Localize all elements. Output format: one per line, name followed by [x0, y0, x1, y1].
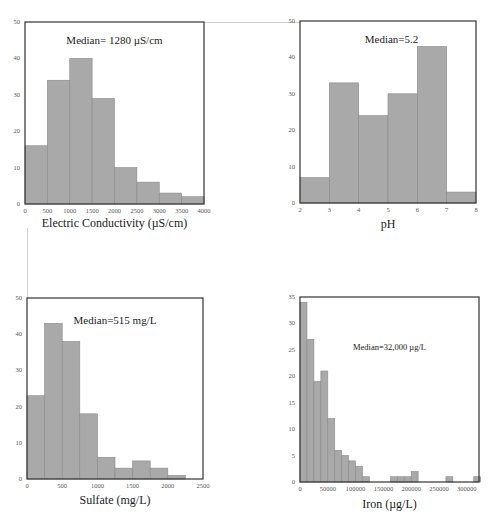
x-tick-label: 3: [328, 206, 331, 213]
x-tick-label: 1000: [91, 482, 104, 489]
x-axis-label: pH: [381, 217, 396, 232]
y-tick-label: 40: [16, 330, 23, 337]
x-axis-label: Sulfate (mg/L): [80, 493, 151, 508]
histogram-bar: [329, 83, 358, 203]
y-tick-label: 10: [289, 163, 296, 170]
y-tick-label: 25: [289, 346, 296, 353]
y-tick-label: 30: [14, 91, 21, 98]
x-tick-label: 2000: [108, 207, 121, 214]
x-tick-label: 4: [357, 206, 361, 213]
histogram-electric-conductivity: 0102030405005001000150020002500300035004…: [25, 22, 204, 204]
histogram-bar: [45, 323, 63, 479]
x-tick-label: 500: [57, 482, 67, 489]
y-tick-label: 0: [17, 200, 20, 207]
x-tick-label: 0: [25, 482, 28, 489]
y-tick-label: 50: [14, 18, 21, 25]
x-tick-label: 2500: [197, 482, 210, 489]
x-tick-label: 300000: [457, 485, 477, 492]
median-annotation: Median=5.2: [365, 33, 419, 45]
histogram-bar: [446, 477, 453, 482]
histogram-plot-area: 0102030405005001000150020002500Median=51…: [27, 298, 203, 479]
histogram-bar: [349, 461, 356, 482]
y-tick-label: 40: [14, 54, 21, 61]
x-tick-label: 1500: [86, 207, 99, 214]
histogram-bar: [356, 466, 363, 482]
histogram-bar: [159, 193, 181, 204]
histogram-plot-area: 0510152025303505000010000015000020000025…: [300, 297, 479, 482]
x-tick-label: 4000: [198, 207, 211, 214]
y-tick-label: 10: [289, 425, 296, 432]
histogram-bar: [321, 371, 328, 482]
histogram-bar: [411, 471, 418, 482]
x-tick-label: 200000: [401, 485, 421, 492]
histogram-bar: [397, 477, 404, 482]
scan-artifact-vertical-line: [27, 228, 28, 298]
y-tick-label: 20: [289, 126, 296, 133]
y-tick-label: 0: [19, 475, 22, 482]
histogram-bar: [47, 80, 69, 204]
median-annotation: Median= 1280 µS/cm: [66, 34, 163, 46]
x-tick-label: 250000: [429, 485, 449, 492]
histogram-bar: [62, 341, 80, 479]
x-axis-label: Electric Conductivity (µS/cm): [42, 216, 188, 231]
x-tick-label: 50000: [320, 485, 336, 492]
x-axis-label: Iron (µg/L): [362, 497, 417, 512]
x-tick-label: 2: [298, 206, 301, 213]
histogram-bar: [70, 58, 92, 204]
histogram-bar: [359, 116, 388, 203]
x-tick-label: 2500: [130, 207, 143, 214]
histogram-bar: [342, 456, 349, 482]
histogram-bar: [314, 382, 321, 482]
histogram-bar: [307, 339, 314, 482]
histogram-bar: [335, 450, 342, 482]
histogram-bar: [328, 419, 335, 482]
histogram-bar: [115, 468, 133, 479]
histogram-iron: 0510152025303505000010000015000020000025…: [300, 297, 479, 482]
x-tick-label: 7: [445, 206, 449, 213]
histogram-bar: [404, 477, 411, 482]
y-tick-label: 30: [289, 90, 296, 97]
histogram-bar: [300, 178, 329, 203]
x-tick-label: 150000: [374, 485, 394, 492]
histogram-bar: [115, 168, 137, 204]
y-tick-label: 0: [292, 478, 295, 485]
y-tick-label: 50: [289, 17, 296, 24]
histogram-sulfate: 0102030405005001000150020002500Median=51…: [27, 298, 203, 479]
x-tick-label: 100000: [346, 485, 366, 492]
histogram-bar: [80, 414, 98, 479]
x-tick-label: 2000: [161, 482, 174, 489]
y-tick-label: 40: [289, 53, 296, 60]
histogram-bar: [92, 98, 114, 204]
y-tick-label: 30: [16, 366, 23, 373]
y-tick-label: 30: [289, 319, 296, 326]
y-tick-label: 10: [14, 164, 21, 171]
x-tick-label: 6: [416, 206, 420, 213]
median-annotation: Median=32,000 µg/L: [353, 342, 426, 352]
x-tick-label: 3500: [175, 207, 188, 214]
histogram-bar: [97, 457, 115, 479]
x-tick-label: 3000: [153, 207, 166, 214]
histogram-bar: [133, 461, 151, 479]
histogram-bar: [417, 46, 446, 203]
x-tick-label: 8: [474, 206, 477, 213]
histogram-bar: [137, 182, 159, 204]
histogram-bar: [300, 302, 307, 482]
histogram-bar: [27, 396, 45, 479]
x-tick-label: 1000: [63, 207, 76, 214]
x-tick-label: 0: [23, 207, 26, 214]
x-tick-label: 5: [386, 206, 389, 213]
y-tick-label: 20: [289, 372, 296, 379]
histogram-bar: [447, 192, 476, 203]
y-tick-label: 10: [16, 439, 23, 446]
y-tick-label: 20: [14, 127, 21, 134]
histogram-bar: [150, 468, 168, 479]
histogram-bar: [363, 477, 370, 482]
x-tick-label: 0: [298, 485, 301, 492]
y-tick-label: 15: [289, 399, 296, 406]
histogram-plot-area: 0102030405005001000150020002500300035004…: [25, 22, 204, 204]
x-tick-label: 1500: [126, 482, 139, 489]
histogram-bar: [182, 197, 204, 204]
histogram-bar: [390, 477, 397, 482]
histogram-bar: [25, 146, 47, 204]
histogram-bar: [388, 94, 417, 203]
